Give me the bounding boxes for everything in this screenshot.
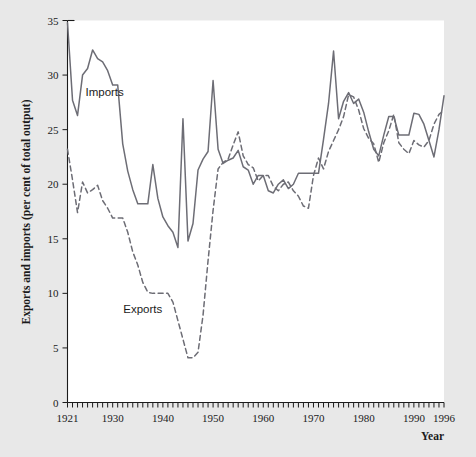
x-tick-label: 1930 [102,412,125,424]
x-axis-tick-marks [68,403,445,408]
x-axis-title: Year [421,430,444,442]
chart-canvas: 05101520253035 1921193019401950196019701… [0,0,476,457]
series-label-imports: Imports [85,86,124,98]
x-tick-label: 1980 [353,412,376,424]
x-tick-label: 1996 [433,412,456,424]
x-tick-label: 1950 [202,412,225,424]
y-tick-label: 20 [48,178,60,190]
x-axis-tick-labels: 192119301940195019601970198019901996 [57,412,456,424]
x-tick-label: 1921 [57,412,79,424]
chart-figure: 05101520253035 1921193019401950196019701… [0,0,476,457]
y-tick-label: 15 [48,233,60,245]
plot-area-background [68,21,445,403]
y-axis-title: Exports and imports (per cent of total o… [20,99,33,324]
x-tick-label: 1990 [403,412,426,424]
y-tick-label: 5 [53,342,59,354]
y-tick-label: 0 [53,397,59,409]
series-label-exports: Exports [123,303,162,315]
y-axis-tick-marks [63,21,68,403]
y-tick-label: 35 [48,15,60,27]
y-tick-label: 25 [48,124,60,136]
y-tick-label: 30 [48,69,60,81]
y-tick-label: 10 [48,287,60,299]
x-tick-label: 1940 [152,412,175,424]
y-axis-tick-labels: 05101520253035 [48,15,60,409]
x-tick-label: 1970 [302,412,325,424]
x-tick-label: 1960 [252,412,275,424]
